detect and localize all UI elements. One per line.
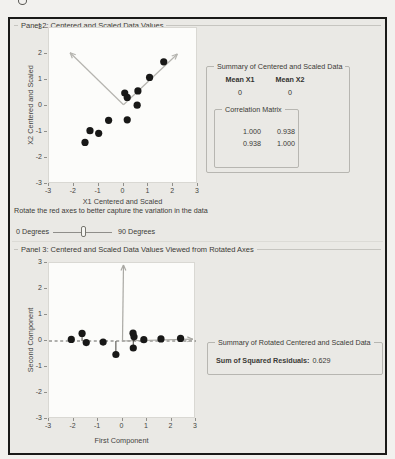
tick-mark	[97, 418, 98, 421]
residuals-value: 0.629	[312, 356, 330, 365]
tick-mark	[98, 183, 99, 186]
tick-mark	[147, 183, 148, 186]
divider	[14, 249, 18, 250]
correlation-matrix-title: Correlation Matrix	[222, 105, 285, 114]
data-point	[86, 127, 93, 134]
tick-mark	[44, 288, 47, 289]
rotation-instruction: Rotate the red axes to better capture th…	[14, 206, 208, 215]
x-tick-label: -1	[89, 187, 107, 194]
mean-x2-header: Mean X2	[275, 75, 304, 84]
tick-mark	[44, 131, 47, 132]
tick-mark	[44, 418, 47, 419]
divider	[166, 25, 381, 26]
tick-mark	[44, 157, 47, 158]
panel-separator	[12, 241, 383, 242]
tick-mark	[44, 314, 47, 315]
demo-module-window: Panel 2: Centered and Scaled Data Values…	[8, 17, 387, 455]
data-point	[146, 74, 153, 81]
data-point	[81, 139, 88, 146]
tick-mark	[44, 262, 47, 263]
x-tick-label: -3	[39, 187, 57, 194]
sum-squared-residuals: Sum of Squared Residuals:0.629	[216, 356, 330, 365]
data-point	[134, 102, 141, 109]
panel3-title: Panel 3: Centered and Scaled Data Values…	[21, 245, 254, 254]
y-tick-label: 3	[22, 23, 42, 30]
mean-x1-column: Mean X1 0	[219, 75, 261, 97]
y-tick-label: 1	[22, 310, 42, 317]
slider-max-label: 90 Degrees	[118, 227, 155, 236]
tick-mark	[122, 418, 123, 421]
tick-mark	[44, 392, 47, 393]
rotation-slider-track[interactable]	[53, 226, 112, 238]
x-tick-label: 2	[162, 422, 180, 429]
x-tick-label: 1	[138, 187, 156, 194]
slider-min-label: 0 Degrees	[16, 227, 49, 236]
tick-mark	[197, 183, 198, 186]
y-tick-label: -2	[22, 388, 42, 395]
data-point	[95, 130, 102, 137]
data-point	[112, 351, 119, 358]
tick-mark	[123, 183, 124, 186]
mean-x1-value: 0	[238, 88, 242, 97]
tick-mark	[146, 418, 147, 421]
summary-rotated-title: Summary of Rotated Centered and Scaled D…	[215, 338, 374, 347]
tick-mark	[172, 183, 173, 186]
data-point	[160, 58, 167, 65]
scanned-figure-page: { "panel2": { "title": "Panel 2: Centere…	[0, 0, 395, 459]
tick-mark	[195, 418, 196, 421]
y-tick-label: -3	[22, 414, 42, 421]
data-point	[140, 336, 147, 343]
rotated-axis-arrow	[123, 265, 124, 341]
summary-centered-scaled-title: Summary of Centered and Scaled Data	[214, 62, 345, 71]
divider	[257, 249, 381, 250]
tick-mark	[73, 183, 74, 186]
data-point	[134, 87, 141, 94]
tick-mark	[44, 53, 47, 54]
data-point	[68, 336, 75, 343]
x-tick-label: 1	[137, 422, 155, 429]
y-tick-label: 0	[22, 336, 42, 343]
x-tick-label: 0	[113, 422, 131, 429]
tick-mark	[44, 366, 47, 367]
panel3-scatter-plot	[48, 262, 195, 418]
corr-cell-0-1: 0.938	[261, 127, 295, 136]
tick-mark	[44, 340, 47, 341]
panel3-x-axis-label: First Component	[48, 436, 195, 445]
y-tick-label: 2	[22, 284, 42, 291]
x-tick-label: 2	[163, 187, 181, 194]
corr-cell-0-0: 1.000	[219, 127, 261, 136]
rotated-axis-arrow	[70, 53, 123, 105]
tick-mark	[73, 418, 74, 421]
y-tick-label: -2	[22, 153, 42, 160]
x-tick-label: 3	[186, 422, 204, 429]
tick-mark	[171, 418, 172, 421]
tick-mark	[48, 418, 49, 421]
y-tick-label: -3	[22, 179, 42, 186]
y-tick-label: 3	[22, 258, 42, 265]
x-tick-label: -2	[64, 187, 82, 194]
cropped-caption-glyph	[18, 0, 27, 5]
mean-x2-value: 0	[288, 88, 292, 97]
data-point	[105, 117, 112, 124]
rotation-slider-handle[interactable]	[81, 226, 86, 237]
y-tick-label: -1	[22, 362, 42, 369]
tick-mark	[44, 105, 47, 106]
panel2-x-axis-label: X1 Centered and Scaled	[48, 197, 197, 206]
x-tick-label: -3	[39, 422, 57, 429]
x-tick-label: 3	[188, 187, 206, 194]
corr-cell-1-1: 1.000	[261, 139, 295, 148]
data-point	[130, 344, 137, 351]
residuals-label: Sum of Squared Residuals:	[216, 356, 309, 365]
x-tick-label: -1	[88, 422, 106, 429]
data-point	[83, 339, 90, 346]
mean-x1-header: Mean X1	[225, 75, 254, 84]
data-point	[130, 333, 137, 340]
tick-mark	[44, 183, 47, 184]
tick-mark	[48, 183, 49, 186]
y-tick-label: 1	[22, 75, 42, 82]
x-tick-label: -2	[64, 422, 82, 429]
data-point	[78, 330, 85, 337]
panel2-plot-canvas	[49, 28, 198, 184]
corr-cell-1-0: 0.938	[219, 139, 261, 148]
panel3-header: Panel 3: Centered and Scaled Data Values…	[14, 245, 381, 254]
